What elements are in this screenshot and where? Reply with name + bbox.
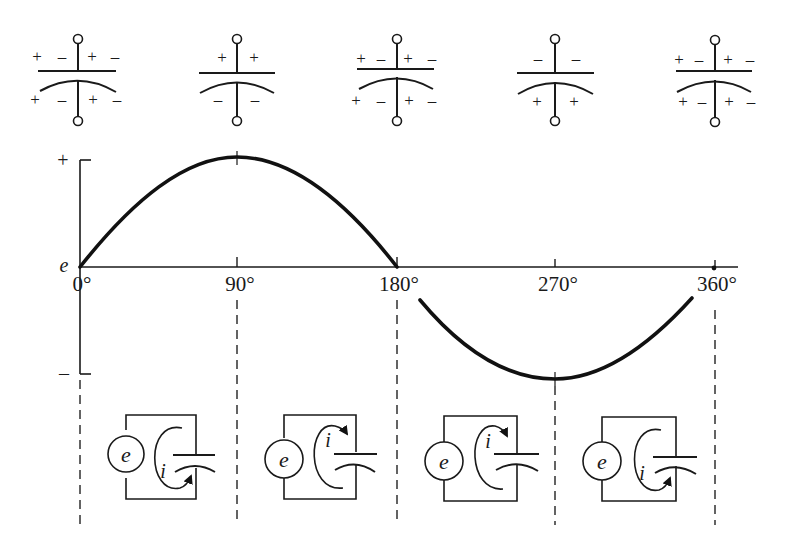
capacitor-state-360deg: + – + – + – + – — [674, 36, 756, 127]
x-tick-label: 90° — [225, 272, 254, 296]
source-label: e — [439, 449, 449, 474]
charge-sign: + — [723, 50, 733, 69]
circuit-180-270: e i — [425, 416, 539, 501]
terminal-icon — [233, 35, 242, 44]
charge-sign: – — [697, 92, 707, 111]
terminal-icon — [711, 118, 720, 127]
terminal-icon — [711, 36, 720, 45]
charge-sign: + — [88, 90, 98, 109]
charge-sign: + — [356, 49, 366, 68]
terminal-icon — [74, 35, 83, 44]
charge-sign: – — [745, 50, 755, 69]
source-label: e — [121, 442, 131, 467]
terminal-icon — [233, 117, 242, 126]
charge-sign: + — [724, 92, 734, 111]
capacitor-bottom-plate — [175, 466, 215, 472]
charge-sign: – — [533, 49, 543, 68]
charge-sign: + — [249, 48, 259, 67]
charge-sign: + — [30, 90, 40, 109]
charge-sign: – — [427, 49, 437, 68]
charge-sign: + — [404, 91, 414, 110]
charge-sign: – — [571, 49, 581, 68]
circuit-0-90: e i — [108, 415, 215, 499]
y-max-label: + — [57, 149, 68, 171]
charge-sign: + — [32, 47, 42, 66]
terminal-icon — [551, 117, 560, 126]
charge-sign: + — [674, 50, 684, 69]
current-arrow-icon — [475, 426, 507, 489]
current-label: i — [325, 429, 331, 451]
current-label: i — [639, 462, 645, 484]
capacitor-bottom-plate — [335, 464, 375, 472]
current-label: i — [485, 430, 491, 452]
x-tick-label: 180° — [379, 272, 419, 296]
capacitor-state-270deg: – – + + — [517, 35, 594, 126]
charge-sign: – — [112, 90, 122, 109]
y-axis-label: e — [60, 254, 69, 276]
x-tick-label: 0° — [73, 272, 92, 296]
source-label: e — [597, 449, 607, 474]
circuit-270-360: e i — [583, 417, 697, 501]
charge-sign: – — [427, 91, 437, 110]
charge-sign: – — [57, 90, 67, 109]
charge-sign: + — [403, 49, 413, 68]
current-label: i — [160, 460, 166, 482]
charge-sign: + — [678, 92, 688, 111]
x-tick-label: 360° — [697, 272, 737, 296]
charge-sign: – — [376, 49, 386, 68]
source-label: e — [279, 447, 289, 472]
charge-sign: – — [250, 90, 260, 109]
charge-sign: + — [569, 92, 579, 111]
waveform-positive-half — [80, 157, 397, 267]
x-tick-label: 270° — [538, 272, 578, 296]
y-min-label: – — [58, 362, 70, 384]
charge-sign: – — [110, 47, 120, 66]
charge-sign: + — [532, 92, 542, 111]
charge-sign: – — [57, 47, 67, 66]
charge-sign: + — [217, 48, 227, 67]
circuit-90-180: e i — [265, 415, 377, 499]
terminal-icon — [551, 35, 560, 44]
capacitor-ac-cycle-diagram: + – + – + – + – + + – – + – + – + – + – — [0, 0, 789, 557]
charge-sign: – — [746, 92, 756, 111]
charge-sign: – — [694, 50, 704, 69]
charge-sign: – — [213, 90, 223, 109]
capacitor-state-90deg: + + – – — [199, 35, 275, 126]
capacitor-state-180deg: + – + – + – + – — [351, 35, 437, 126]
waveform-negative-half — [420, 298, 692, 379]
terminal-icon — [393, 117, 402, 126]
charge-sign: + — [87, 47, 97, 66]
terminal-icon — [74, 117, 83, 126]
capacitor-state-0deg: + – + – + – + – — [30, 35, 122, 126]
charge-sign: + — [351, 91, 361, 110]
charge-sign: – — [376, 91, 386, 110]
terminal-icon — [393, 35, 402, 44]
